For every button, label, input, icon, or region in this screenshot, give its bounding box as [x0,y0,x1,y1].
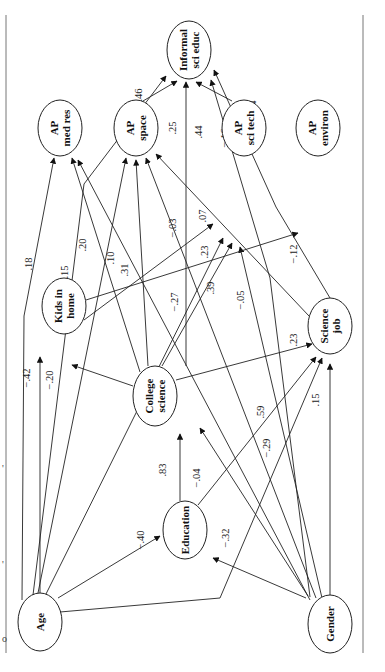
coefficient-gender-to-science_job: .15 [310,393,321,406]
node-label: environ [318,110,330,146]
coefficient-age-to-science_job: −.29 [261,438,272,457]
node-college: Collegescience [133,366,177,426]
caption-fragment: ' [2,559,4,570]
coefficient-age-to-ap_scitech: .23 [199,245,210,258]
node-label: Kids in [52,289,64,323]
edge-college-to-kids [72,365,133,386]
node-label: Informal [177,29,189,71]
node-label: med res [60,109,72,146]
node-label: AP [48,120,60,135]
coefficient-ap_scitech-to-informal: .44 [193,125,204,139]
coefficient-college-to-science_job: .23 [288,333,299,346]
node-ap_space: APspace [114,100,158,156]
node-label: Science [318,308,330,343]
coefficient-gender-to-ap_space: −.27 [169,292,180,311]
edge-gender-to-education [213,558,306,598]
node-informal: Informalsci educ [167,21,211,79]
coefficient-education-to-science_job: .59 [255,405,266,418]
edge-science_job-to-ap_space [156,154,309,316]
edge-college-to-ap_space [136,160,148,366]
coefficient-age-to-education: −.40 [135,530,146,549]
coefficient-college-to-ap_med: .15 [59,265,70,278]
coefficient-college-to-informal: .25 [167,121,178,134]
node-age: Age [18,593,62,651]
coefficient-age-to-kids: −.42 [21,368,32,387]
node-label: sci tech [244,111,256,146]
coefficient-gender-to-college: −.04 [191,468,202,488]
coefficient-kids-to-ap_environ: −.12 [288,244,299,263]
coefficient-college-to-ap_scitech: .39 [205,281,216,294]
node-label: AP [232,120,244,135]
edge-education-to-science_job [198,357,316,505]
node-label: AP [306,120,318,135]
node-gender: Gender [308,595,352,653]
coefficient-age-to-ap_space: .10 [105,251,116,264]
caption-fragment: o [2,633,7,644]
coefficient-college-to-kids: −.20 [44,370,55,389]
node-label: AP [124,120,136,135]
coefficient-science_job-to-ap_space: −.03 [167,218,178,237]
node-label: space [136,115,148,141]
edge-college-to-science_job [176,344,312,380]
node-ap_environ: APenviron [296,100,340,156]
node-kids: Kids inhome [42,278,86,334]
node-ap_med: APmed res [38,100,82,156]
node-label: Education [179,506,191,554]
node-education: Education [163,501,207,559]
node-label: Age [34,613,46,631]
coefficient-gender-to-ap_scitech: −.05 [235,290,246,309]
node-label: College [143,378,155,413]
nodes: Informalsci educAPmed resAPspaceAPsci te… [18,21,352,653]
node-science_job: Sciencejob [308,298,352,354]
coefficient-gender-to-ap_med: .20 [77,238,88,251]
node-label: science [155,379,167,412]
coefficient-gender-to-education: −.32 [220,528,231,547]
coefficient-kids-to-ap_scitech: .07 [197,209,208,222]
coefficient-education-to-college: .83 [157,463,168,476]
node-label: sci educ [189,31,201,68]
coefficient-college-to-ap_space: .31 [119,263,130,276]
node-ap_scitech: APsci tech [222,100,266,156]
node-label: job [330,318,342,334]
path-diagram: ''o −.46−.14.25.44−.16−.14.18.15.20.10.3… [0,0,385,672]
caption-fragment: ' [2,463,4,474]
node-label: Gender [324,606,336,642]
coefficient-age-to-ap_med: .18 [23,257,34,270]
node-label: home [64,293,76,319]
